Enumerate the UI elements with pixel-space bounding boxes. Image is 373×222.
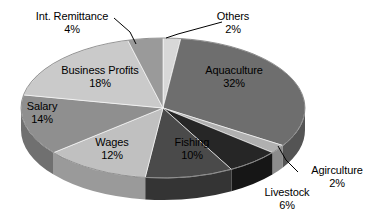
slice-label-int-remittance: Int. Remittance 4% bbox=[22, 10, 122, 35]
slice-label-aquaculture: Aquaculture 32% bbox=[192, 64, 276, 89]
slice-label-int-remittance-name: Int. Remittance bbox=[22, 10, 122, 23]
slice-label-business-profits-name: Business Profits bbox=[52, 64, 148, 77]
slice-label-wages: Wages 12% bbox=[84, 136, 140, 161]
slice-label-livestock-name: Livestock bbox=[256, 186, 318, 199]
slice-label-wages-name: Wages bbox=[84, 136, 140, 149]
slice-label-aquaculture-value: 32% bbox=[192, 77, 276, 90]
slice-label-livestock: Livestock 6% bbox=[256, 186, 318, 211]
slice-label-salary: Salary 14% bbox=[14, 100, 70, 125]
slice-label-int-remittance-value: 4% bbox=[22, 23, 122, 36]
slice-label-fishing-name: Fishing bbox=[164, 136, 220, 149]
slice-label-aquaculture-name: Aquaculture bbox=[192, 64, 276, 77]
slice-label-fishing: Fishing 10% bbox=[164, 136, 220, 161]
slice-label-others-name: Others bbox=[206, 10, 260, 23]
slice-label-wages-value: 12% bbox=[84, 149, 140, 162]
slice-label-agriculture-name: Agirculture bbox=[304, 164, 370, 177]
slice-label-fishing-value: 10% bbox=[164, 149, 220, 162]
slice-label-salary-value: 14% bbox=[14, 113, 70, 126]
slice-label-salary-name: Salary bbox=[14, 100, 70, 113]
pie-chart: Int. Remittance 4% Others 2% Business Pr… bbox=[0, 0, 373, 222]
slice-label-livestock-value: 6% bbox=[256, 199, 318, 212]
slice-label-others: Others 2% bbox=[206, 10, 260, 35]
slice-label-business-profits-value: 18% bbox=[52, 77, 148, 90]
slice-label-business-profits: Business Profits 18% bbox=[52, 64, 148, 89]
slice-label-others-value: 2% bbox=[206, 23, 260, 36]
